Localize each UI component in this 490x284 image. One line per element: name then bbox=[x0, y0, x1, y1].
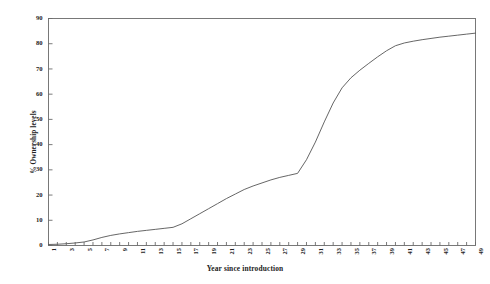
axes-frame bbox=[49, 19, 476, 246]
axis-ticks bbox=[49, 19, 476, 246]
data-series-line bbox=[49, 33, 476, 244]
plot-area bbox=[0, 0, 490, 284]
chart-container: % Ownership levels Year since introducti… bbox=[0, 0, 490, 284]
